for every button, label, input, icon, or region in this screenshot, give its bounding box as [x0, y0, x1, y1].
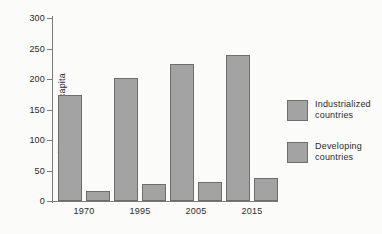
bar-developing-1995 [142, 184, 166, 201]
bar-developing-2005 [198, 182, 222, 201]
chart-legend: Industrialized countries Developing coun… [287, 100, 382, 184]
bar-group-2005 [170, 18, 222, 201]
legend-label-industrialized: Industrialized countries [315, 99, 382, 121]
y-tick-label-100: 100 [29, 136, 45, 145]
bar-industrialized-1970 [58, 95, 82, 201]
bar-group-1995 [114, 18, 166, 201]
legend-swatch-industrialized [287, 100, 308, 121]
legend-label-developing: Developing countries [315, 141, 382, 163]
y-tick-label-250: 250 [29, 44, 45, 53]
legend-label-developing-line1: Developing [315, 141, 362, 151]
y-tick-label-200: 200 [29, 75, 45, 84]
bar-developing-2015 [254, 178, 278, 201]
y-tick-label-150: 150 [29, 105, 45, 114]
x-tick-label-2015: 2015 [222, 207, 282, 216]
legend-label-developing-line2: countries [315, 152, 382, 163]
x-tick-label-1995: 1995 [110, 207, 170, 216]
bar-industrialized-1995 [114, 78, 138, 201]
legend-swatch-developing [287, 142, 308, 163]
y-tick-label-50: 50 [35, 166, 45, 175]
x-axis-line [52, 201, 278, 202]
x-tick-label-1970: 1970 [54, 207, 114, 216]
legend-item-developing: Developing countries [287, 142, 382, 168]
y-tick-label-300: 300 [29, 14, 45, 23]
plot-area: 0 50 100 150 200 250 300 [52, 18, 267, 201]
legend-label-industrialized-line2: countries [315, 110, 382, 121]
bar-chart: Million Btu per capita 0 50 100 150 200 … [0, 0, 382, 234]
legend-label-industrialized-line1: Industrialized [315, 99, 371, 109]
bar-industrialized-2015 [226, 55, 250, 201]
x-tick-label-2005: 2005 [166, 207, 226, 216]
bar-developing-1970 [86, 191, 110, 201]
bar-industrialized-2005 [170, 64, 194, 201]
legend-item-industrialized: Industrialized countries [287, 100, 382, 126]
y-tick-label-0: 0 [40, 197, 45, 206]
bar-group-2015 [226, 18, 278, 201]
bar-group-1970 [58, 18, 110, 201]
